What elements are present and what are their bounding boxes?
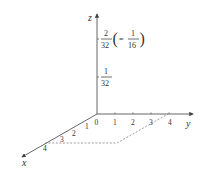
x-tick-4: 4 [43, 144, 47, 153]
z-mark-1-den: 32 [101, 79, 109, 88]
z-mark-1-num: 1 [104, 67, 108, 76]
x-axis-label: x [21, 157, 27, 168]
y-axis-label: y [185, 118, 191, 129]
z-mark-2-num: 2 [104, 29, 108, 38]
y-tick-2: 2 [131, 118, 135, 127]
z-mark-2-eq-den: 16 [128, 41, 136, 50]
paren-right: ) [140, 30, 145, 48]
z-mark-2-eq-num: 1 [131, 29, 135, 38]
equals-sign: = [119, 35, 124, 44]
y-tick-4: 4 [168, 118, 172, 127]
y-axis-ticks: 1 2 3 4 [113, 113, 172, 128]
x-tick-2: 2 [72, 129, 76, 138]
z-mark-2-den: 32 [101, 41, 109, 50]
3d-coordinate-diagram: z y x 0 1 2 3 4 1 2 3 4 1 32 2 [0, 0, 205, 174]
z-mark-1-32: 1 32 [97, 67, 112, 88]
x-axis-ticks: 1 2 3 4 [43, 122, 89, 153]
z-axis-label: z [87, 12, 92, 23]
z-mark-2-32: 2 32 ( = 1 16 ) [97, 29, 145, 50]
origin-label: 0 [95, 118, 99, 127]
paren-left: ( [113, 30, 118, 48]
y-tick-1: 1 [113, 118, 117, 127]
x-tick-1: 1 [85, 122, 89, 131]
